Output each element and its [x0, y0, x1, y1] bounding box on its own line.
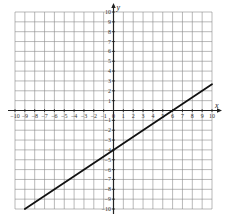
- x-tick-label: −10: [10, 113, 19, 119]
- y-tick-label: 6: [108, 48, 111, 54]
- x-tick-label: 0: [112, 113, 115, 119]
- y-tick-label: 3: [108, 78, 111, 84]
- x-tick-label: −5: [61, 113, 67, 119]
- x-axis-label: x: [214, 101, 219, 110]
- axes: x y: [8, 3, 222, 214]
- y-tick-label: 8: [108, 29, 111, 35]
- x-tick-label: −7: [41, 113, 47, 119]
- y-axis-arrow-icon: [111, 3, 115, 8]
- y-tick-label: −8: [105, 186, 111, 192]
- linear-function-line: [25, 84, 212, 209]
- y-tick-label: 1: [108, 98, 111, 104]
- coordinate-plane: x y −10−9−8−7−6−5−4−3−2−1012345678910−10…: [0, 0, 226, 216]
- y-tick-label: 2: [108, 88, 111, 94]
- x-tick-label: 9: [201, 113, 204, 119]
- x-tick-label: 1: [122, 113, 125, 119]
- x-tick-label: 4: [151, 113, 154, 119]
- y-tick-label: −6: [105, 167, 111, 173]
- y-tick-label: 10: [105, 9, 111, 15]
- x-tick-label: −9: [22, 113, 28, 119]
- y-tick-label: 4: [108, 68, 111, 74]
- y-tick-label: 7: [108, 39, 111, 45]
- x-tick-label: 8: [191, 113, 194, 119]
- x-tick-label: 3: [142, 113, 145, 119]
- x-tick-label: −3: [81, 113, 87, 119]
- x-tick-label: 7: [181, 113, 184, 119]
- x-tick-label: −6: [51, 113, 57, 119]
- y-tick-label: −5: [105, 157, 111, 163]
- data-series: [25, 84, 212, 209]
- y-tick-label: −7: [105, 176, 111, 182]
- y-tick-label: −9: [105, 196, 111, 202]
- y-tick-label: 5: [108, 58, 111, 64]
- x-tick-label: −8: [32, 113, 38, 119]
- y-tick-label: −2: [105, 127, 111, 133]
- x-tick-label: 10: [209, 113, 215, 119]
- x-tick-label: 6: [171, 113, 174, 119]
- y-tick-label: 9: [108, 19, 111, 25]
- x-tick-label: 2: [132, 113, 135, 119]
- y-tick-label: −1: [105, 117, 111, 123]
- x-tick-label: −4: [71, 113, 77, 119]
- y-tick-label: −10: [102, 206, 111, 212]
- y-tick-label: −3: [105, 137, 111, 143]
- x-tick-label: −2: [91, 113, 97, 119]
- y-axis-label: y: [116, 3, 121, 12]
